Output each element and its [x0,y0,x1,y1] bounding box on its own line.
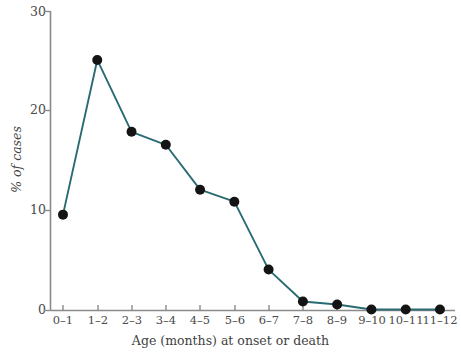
data-point-markers [58,55,445,315]
data-point-marker [58,210,68,220]
axis-spines [51,11,456,311]
y-axis-ticks-marks [44,12,51,311]
x-axis-tick-label: 11–12 [413,313,461,327]
x-axis-tick-group: 0–1 1–2 2–3 3–4 4–5 5–6 6–7 7–8 8–9 9–10… [0,313,461,333]
data-series-line [63,60,440,310]
data-point-marker [229,197,239,207]
data-point-marker [298,297,308,307]
data-point-marker [127,127,137,137]
x-axis-title: Age (months) at onset or death [0,333,461,348]
data-point-marker [332,300,342,310]
data-point-marker [161,140,171,150]
plot-area [0,0,461,353]
data-point-marker [264,265,274,275]
data-point-marker [195,185,205,195]
chart-figure: 30 20 10 0 % of cases [0,0,461,353]
data-point-marker [92,55,102,65]
